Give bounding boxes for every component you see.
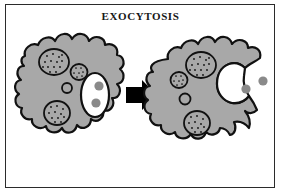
figure-scene <box>5 4 275 188</box>
secreted-particle <box>91 98 100 107</box>
organelle-large-stippled-upper-after <box>186 52 216 78</box>
secretory-vesicle-fused <box>217 63 249 103</box>
organelle-plain-small-after <box>180 94 191 105</box>
released-particle <box>241 84 250 93</box>
organelle-plain-small-before <box>62 83 72 93</box>
secretory-vesicle-intact <box>81 73 109 117</box>
organelle-large-stippled-lower-before <box>44 101 70 125</box>
exocytosis-figure: EXOCYTOSIS <box>0 0 281 195</box>
cell-before-exocytosis <box>15 34 123 133</box>
organelle-large-stippled-lower-after <box>184 111 210 135</box>
organelle-small-stippled-before <box>71 64 88 80</box>
organelle-small-stippled-after <box>171 72 188 88</box>
secreted-particle <box>94 81 103 90</box>
cell-after-exocytosis <box>144 37 268 139</box>
organelle-large-stippled-upper-before <box>39 49 69 75</box>
released-particle <box>258 76 267 85</box>
